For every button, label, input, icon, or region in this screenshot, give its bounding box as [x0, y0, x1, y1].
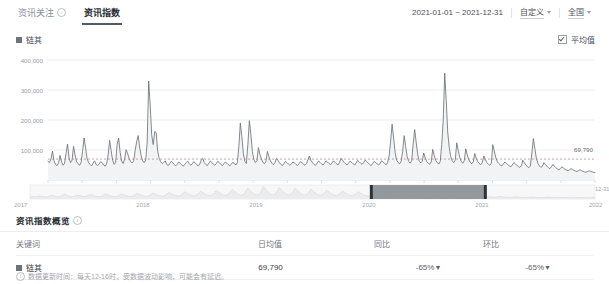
- info-icon: i: [16, 272, 25, 281]
- arrow-down-icon: ▼: [434, 264, 441, 271]
- chart-legend-item[interactable]: 链其: [16, 34, 42, 45]
- tab-news-index[interactable]: 资讯指数: [82, 4, 122, 25]
- legend-color-swatch: [16, 37, 22, 43]
- top-controls: 2021-01-01 ~ 2021-12-31 自定义 全国: [404, 6, 599, 19]
- line-chart-svg: 100,000200,000300,000400,00069,7902021-0…: [0, 48, 609, 198]
- info-icon[interactable]: i: [57, 8, 66, 17]
- tab-bar: 资讯关注 i 资讯指数 2021-01-01 ~ 2021-12-31 自定义 …: [0, 0, 609, 27]
- column-header-keyword: 关键词: [16, 234, 258, 256]
- average-toggle[interactable]: 平均值: [558, 34, 595, 45]
- chart-panel: 链其 平均值 100,000200,000300,000400,00069,79…: [0, 26, 609, 208]
- region-label: 全国: [568, 6, 584, 19]
- chevron-down-icon: [547, 11, 551, 14]
- checkbox-icon[interactable]: [558, 35, 567, 44]
- tab-news-attention[interactable]: 资讯关注 i: [16, 4, 68, 25]
- svg-text:100,000: 100,000: [21, 147, 44, 154]
- legend-label: 链其: [26, 34, 42, 45]
- region-dropdown[interactable]: 全国: [560, 6, 599, 19]
- timeline-range-slider-svg: 201720182019202020212022: [0, 184, 609, 210]
- date-range-display[interactable]: 2021-01-01 ~ 2021-12-31: [404, 8, 511, 17]
- table-head: 关键词 日均值 同比 环比: [16, 234, 593, 256]
- line-chart[interactable]: 100,000200,000300,000400,00069,7902021-0…: [0, 48, 609, 198]
- range-preset-dropdown[interactable]: 自定义: [512, 6, 559, 19]
- tab-list: 资讯关注 i 资讯指数: [16, 4, 122, 25]
- chevron-down-icon: [587, 11, 591, 14]
- svg-text:200,000: 200,000: [21, 117, 44, 124]
- yoy-value: -65%: [416, 263, 435, 272]
- tab-news-index-label: 资讯指数: [84, 6, 120, 19]
- svg-text:300,000: 300,000: [21, 87, 44, 94]
- average-toggle-label: 平均值: [571, 34, 595, 45]
- cell-mom: -65%▼: [483, 256, 593, 280]
- overview-title-label: 资讯指数概览: [16, 214, 70, 226]
- news-index-page: 资讯关注 i 资讯指数 2021-01-01 ~ 2021-12-31 自定义 …: [0, 0, 609, 284]
- cell-daily-average: 69,790: [258, 256, 373, 280]
- cell-yoy: -65%▼: [374, 256, 484, 280]
- column-header-daily-average: 日均值: [258, 234, 373, 256]
- footnote: i 数据更新时间：每天12-16时，受数据波动影响，可能会有延迟。: [16, 271, 228, 281]
- overview-section: 资讯指数概览 i 关键词 日均值 同比 环比 链其: [0, 208, 609, 284]
- svg-text:69,790: 69,790: [574, 146, 593, 153]
- divider: [0, 231, 609, 232]
- arrow-down-icon: ▼: [544, 264, 551, 271]
- timeline-range-slider[interactable]: 201720182019202020212022: [0, 184, 609, 210]
- overview-title: 资讯指数概览 i: [16, 214, 82, 226]
- column-header-yoy: 同比: [374, 234, 484, 256]
- info-icon[interactable]: i: [73, 216, 82, 225]
- table-header-row: 关键词 日均值 同比 环比: [16, 234, 593, 256]
- column-header-mom: 环比: [483, 234, 593, 256]
- mom-value: -65%: [525, 263, 544, 272]
- range-preset-label: 自定义: [520, 6, 544, 19]
- svg-text:400,000: 400,000: [21, 57, 44, 64]
- footnote-text: 数据更新时间：每天12-16时，受数据波动影响，可能会有延迟。: [28, 271, 228, 281]
- tab-news-attention-label: 资讯关注: [18, 6, 54, 19]
- keyword-color-swatch: [16, 265, 22, 271]
